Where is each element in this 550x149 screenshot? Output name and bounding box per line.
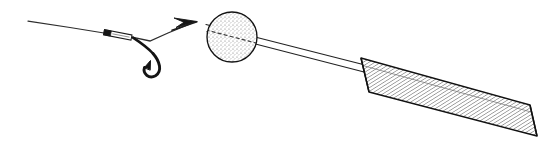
background <box>0 0 550 149</box>
fishing-rod-illustration <box>0 0 550 149</box>
illustration-canvas: Fishing rod line-art illustration <box>0 0 550 149</box>
crimp-sleeve-cap <box>104 30 112 36</box>
stippled-ball <box>206 12 258 62</box>
